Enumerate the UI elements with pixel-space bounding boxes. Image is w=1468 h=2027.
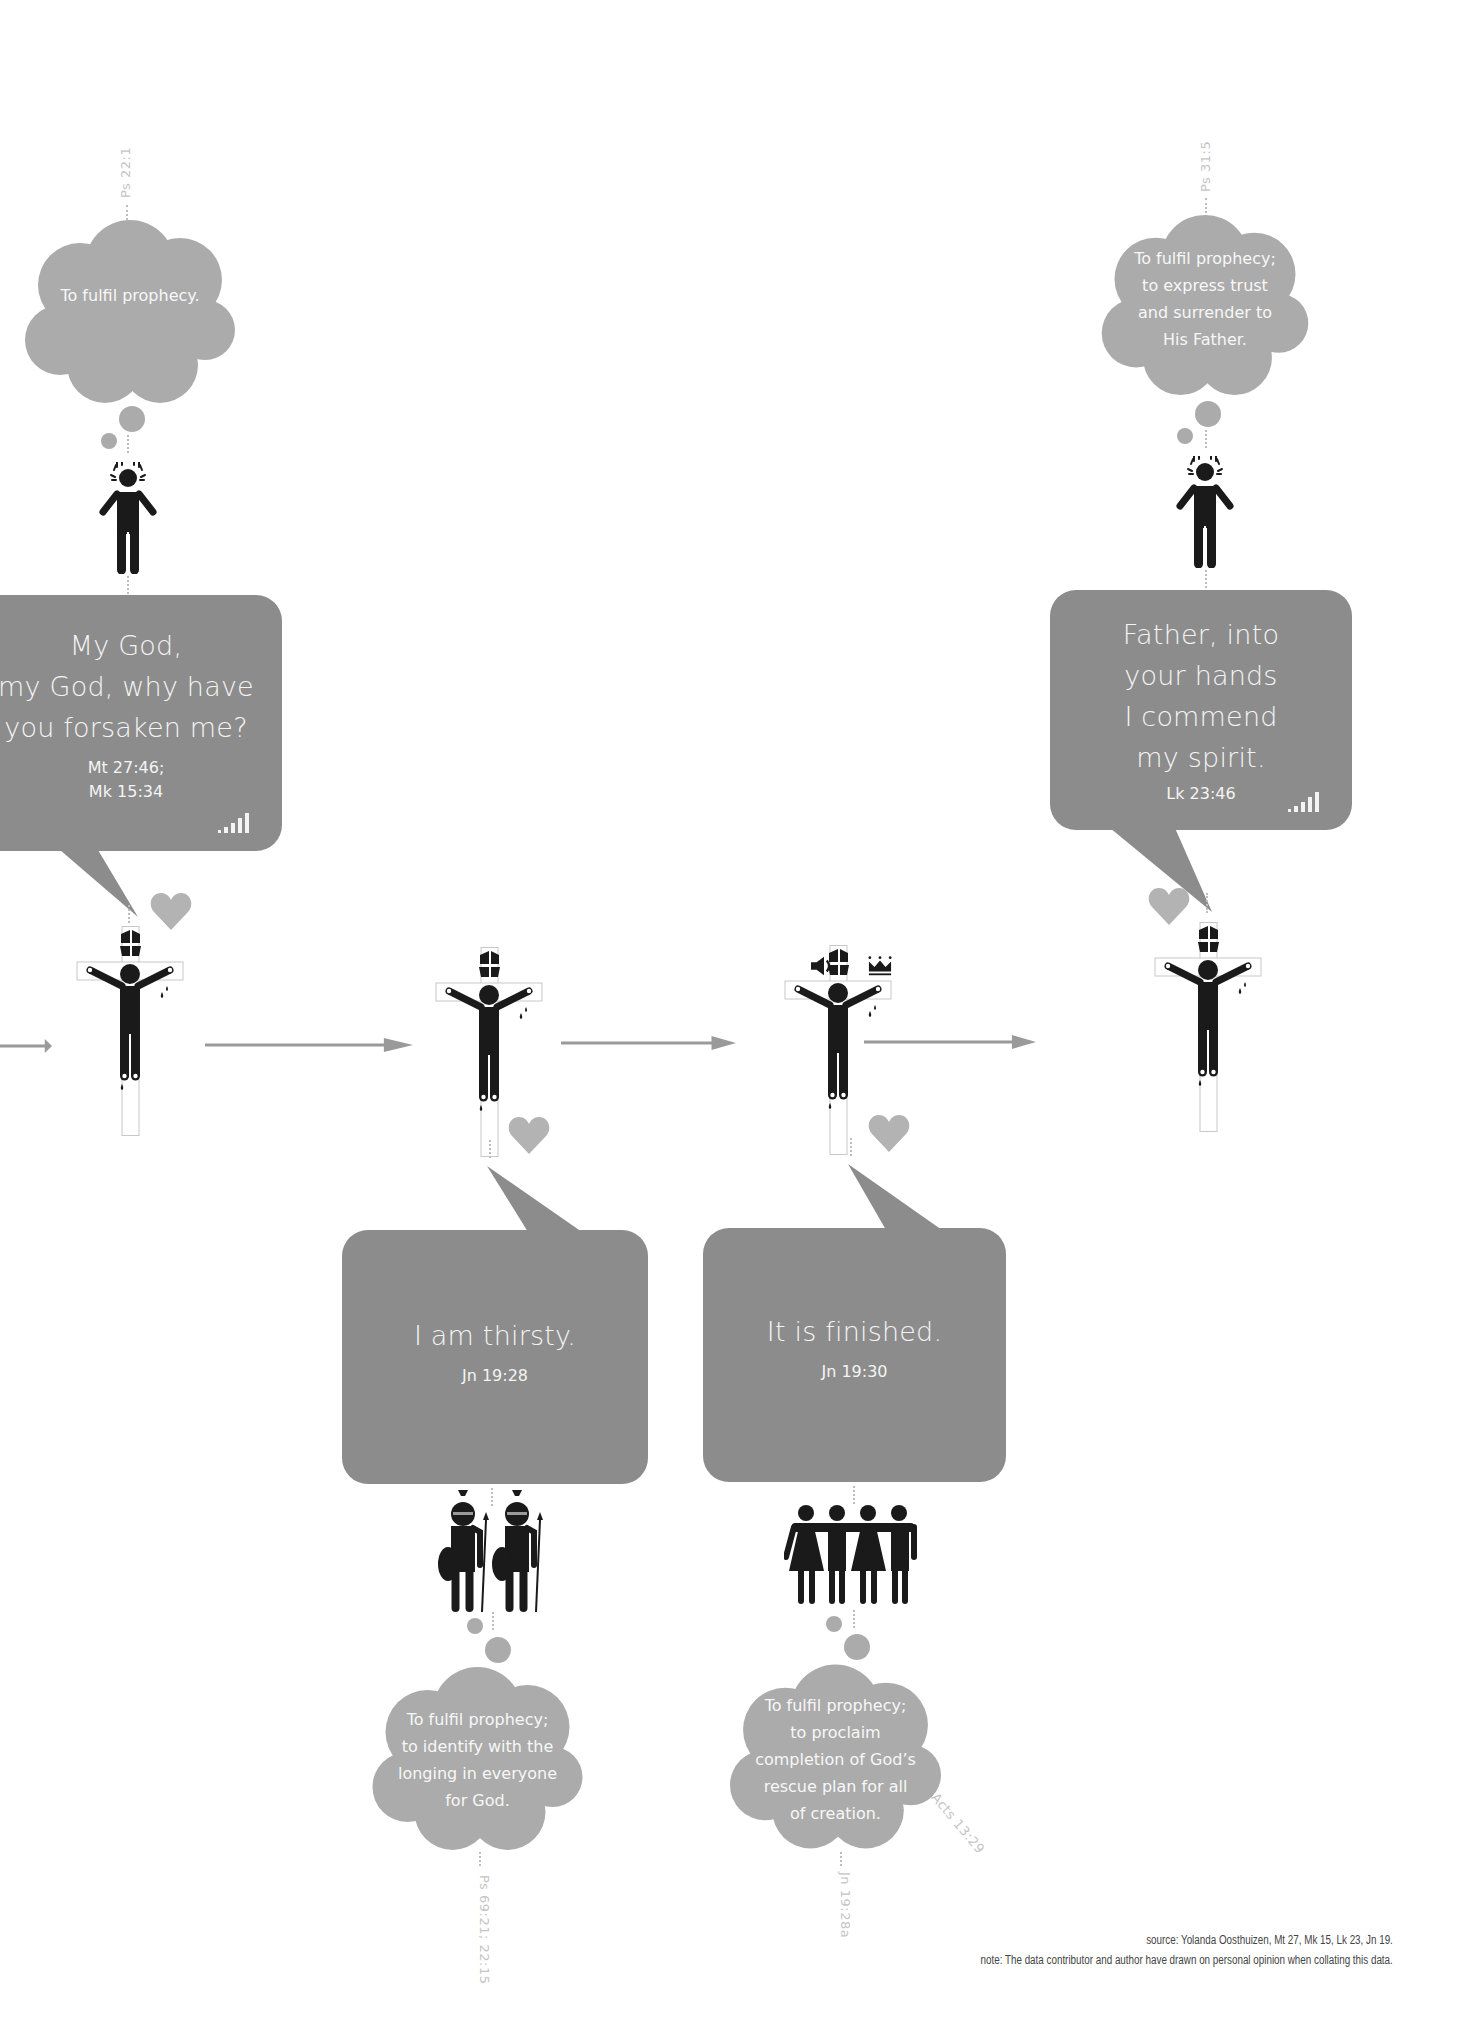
source-note: source: Yolanda Oosthuizen, Mt 27, Mk 15… — [1146, 1933, 1393, 1947]
speech-bubble-1: My God, my God, why have you forsaken me… — [0, 595, 282, 851]
bubble-connector — [853, 1486, 855, 1504]
crucified-figure-4 — [1154, 922, 1262, 1132]
quote-text: It is finished. — [703, 1311, 1006, 1352]
speech-bubble-tail-1 — [0, 850, 160, 920]
scripture-ref: Jn 19:30 — [703, 1360, 1006, 1384]
roman-soldier-icon — [438, 1490, 490, 1612]
signal-strength-icon — [218, 813, 254, 833]
flow-arrow-1-2 — [205, 1038, 413, 1052]
thought-text-4: To fulfil prophecy; to express trust and… — [1110, 245, 1300, 353]
thought-dot-small — [1176, 427, 1194, 445]
scripture-ref: Mt 27:46; Mk 15:34 — [0, 756, 282, 804]
person-connector — [127, 576, 129, 594]
prophecy-ref-4: Ps 31:5 — [1198, 141, 1213, 192]
flow-arrow-in — [0, 1039, 52, 1053]
thought-connector — [1205, 430, 1207, 448]
quote-text: My God, my God, why have you forsaken me… — [0, 625, 282, 748]
ref-connector — [479, 1852, 481, 1866]
thought-text-1: To fulfil prophecy. — [35, 282, 225, 309]
cross-connector — [489, 1140, 491, 1158]
crowd-of-people-icon — [784, 1505, 920, 1605]
crown-icon — [868, 955, 892, 977]
bubble-connector — [1206, 893, 1208, 913]
thought-dot-large — [484, 1636, 512, 1664]
crucified-figure-1 — [76, 926, 184, 1136]
quote-text: I am thirsty. — [342, 1315, 648, 1356]
bubble-connector — [128, 905, 130, 923]
flow-arrow-2-3 — [561, 1036, 736, 1050]
scripture-ref: Jn 19:28 — [342, 1364, 648, 1388]
thought-text-3: To fulfil prophecy; to proclaim completi… — [738, 1692, 933, 1827]
thought-dot-large — [843, 1633, 871, 1661]
speech-bubble-tail-2 — [480, 1160, 590, 1235]
thought-dot-large — [1194, 400, 1222, 428]
thought-dot-large — [118, 405, 146, 433]
roman-soldier-icon — [492, 1490, 544, 1612]
prophecy-ref-1: Ps 22:1 — [118, 147, 133, 198]
speech-bubble-4: Father, into your hands I commend my spi… — [1050, 590, 1352, 830]
crowd-connector — [853, 1610, 855, 1628]
disclaimer-note: note: The data contributor and author ha… — [981, 1953, 1393, 1967]
prophecy-ref-2: Ps 69:21; 22:15 — [477, 1875, 492, 1984]
speech-bubble-tail-3 — [842, 1158, 952, 1233]
ref-connector — [126, 205, 128, 220]
speech-bubble-3: It is finished. Jn 19:30 — [703, 1228, 1006, 1482]
ref-connector — [840, 1852, 842, 1866]
thought-cloud-1 — [25, 220, 235, 405]
speech-bubble-2: I am thirsty. Jn 19:28 — [342, 1230, 648, 1484]
thought-dot-small — [466, 1617, 484, 1635]
prophecy-ref-3: Jn 19:28a — [838, 1872, 853, 1938]
distressed-person-icon — [1175, 456, 1235, 568]
ref-connector — [1205, 198, 1207, 213]
heart-icon — [868, 1115, 910, 1153]
thought-text-2: To fulfil prophecy; to identify with the… — [380, 1706, 575, 1814]
person-connector — [1205, 570, 1207, 588]
thought-dot-small — [100, 432, 118, 450]
thought-dot-small — [825, 1615, 843, 1633]
cross-connector — [850, 1138, 852, 1156]
heart-icon — [508, 1117, 550, 1155]
signal-strength-icon — [1288, 792, 1324, 812]
heart-icon — [1148, 888, 1190, 926]
thought-connector — [127, 435, 129, 453]
distressed-person-icon — [98, 462, 158, 574]
speaker-icon — [811, 956, 837, 976]
soldier-connector — [492, 1612, 494, 1630]
quote-text: Father, into your hands I commend my spi… — [1050, 614, 1352, 778]
